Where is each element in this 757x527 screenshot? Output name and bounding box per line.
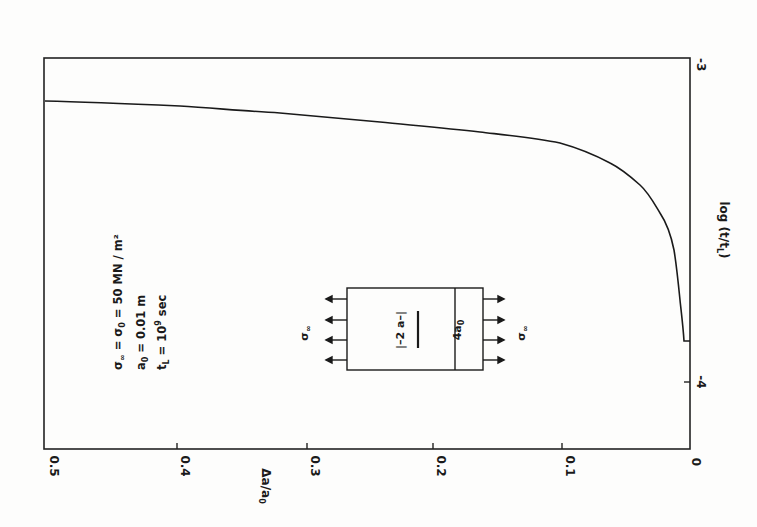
sigma-right-label: σ∞ xyxy=(515,325,530,340)
inset-labels: |–2 a–| 4a0 σ∞ σ∞ xyxy=(298,311,530,349)
crack-length-label: |–2 a–| xyxy=(394,311,407,349)
plate-width-label: 4a0 xyxy=(451,319,466,340)
plot-frame xyxy=(44,58,690,449)
x-tick-label-minus-3: -3 xyxy=(694,58,708,71)
x-tick-label-minus-4: -4 xyxy=(694,375,708,388)
y-axis-ticks xyxy=(177,443,562,449)
y-tick-label-0.5: 0.5 xyxy=(47,455,61,476)
left-load-arrows xyxy=(326,296,347,363)
specimen-inset xyxy=(326,288,504,370)
y-tick-label-0.1: 0.1 xyxy=(563,455,577,476)
parameter-annotation: σ∞ = σ0 = 50 MN / m² a0 = 0.01 m tL = 10… xyxy=(111,234,171,370)
param-a0: a0 = 0.01 m xyxy=(134,295,150,370)
sigma-left-label: σ∞ xyxy=(298,325,313,340)
y-axis-title: Δa/a0 xyxy=(257,468,273,504)
y-tick-label-0.4: 0.4 xyxy=(178,455,192,476)
param-tL: tL = 109 sec xyxy=(154,295,171,370)
chart-figure: 0.5 0.4 0.3 0.2 0.1 0 -3 -4 log (t/tL) Δ… xyxy=(0,0,757,527)
right-load-arrows xyxy=(483,296,504,363)
y-tick-label-0.2: 0.2 xyxy=(434,455,448,476)
y-tick-label-0: 0 xyxy=(689,458,703,466)
x-tick-labels: -3 -4 xyxy=(694,58,708,389)
y-tick-label-0.3: 0.3 xyxy=(308,455,322,476)
param-sigma: σ∞ = σ0 = 50 MN / m² xyxy=(111,234,127,370)
y-tick-labels: 0.5 0.4 0.3 0.2 0.1 0 xyxy=(47,455,703,476)
x-axis-title: log (t/tL) xyxy=(715,201,731,258)
chart-svg: 0.5 0.4 0.3 0.2 0.1 0 -3 -4 log (t/tL) Δ… xyxy=(0,0,757,527)
